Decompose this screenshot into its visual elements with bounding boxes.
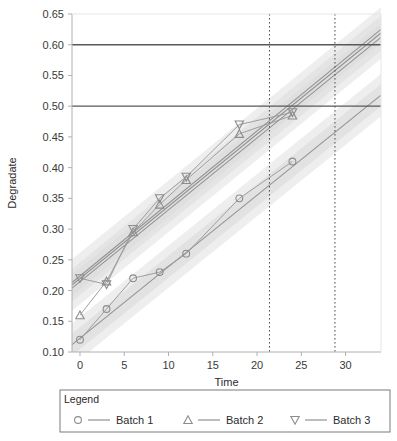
y-tick-label-3: 0.25 bbox=[43, 254, 64, 266]
degradate-vs-time-chart: 0.100.150.200.250.300.350.400.450.500.55… bbox=[0, 0, 397, 441]
y-tick-label-2: 0.20 bbox=[43, 285, 64, 297]
y-tick-label-10: 0.60 bbox=[43, 39, 64, 51]
y-tick-label-7: 0.45 bbox=[43, 131, 64, 143]
legend-label-batch-2: Batch 2 bbox=[226, 414, 263, 426]
x-tick-label-6: 30 bbox=[339, 359, 351, 371]
x-tick-label-5: 25 bbox=[295, 359, 307, 371]
legend-label-batch-3: Batch 3 bbox=[333, 414, 370, 426]
x-tick-label-1: 5 bbox=[121, 359, 127, 371]
y-tick-label-6: 0.40 bbox=[43, 162, 64, 174]
y-axis-title: Degradate bbox=[6, 157, 18, 208]
x-tick-label-2: 10 bbox=[162, 359, 174, 371]
legend-title: Legend bbox=[64, 393, 99, 405]
x-tick-label-0: 0 bbox=[77, 359, 83, 371]
y-tick-label-9: 0.55 bbox=[43, 69, 64, 81]
x-tick-label-4: 20 bbox=[251, 359, 263, 371]
y-tick-label-8: 0.50 bbox=[43, 100, 64, 112]
y-tick-label-4: 0.30 bbox=[43, 223, 64, 235]
y-tick-label-11: 0.65 bbox=[43, 8, 64, 20]
y-tick-label-5: 0.35 bbox=[43, 192, 64, 204]
legend-label-batch-1: Batch 1 bbox=[116, 414, 153, 426]
x-tick-label-3: 15 bbox=[207, 359, 219, 371]
y-tick-label-0: 0.10 bbox=[43, 346, 64, 358]
y-tick-label-1: 0.15 bbox=[43, 315, 64, 327]
chart-figure: 0.100.150.200.250.300.350.400.450.500.55… bbox=[0, 0, 397, 441]
x-axis-title: Time bbox=[214, 376, 238, 388]
